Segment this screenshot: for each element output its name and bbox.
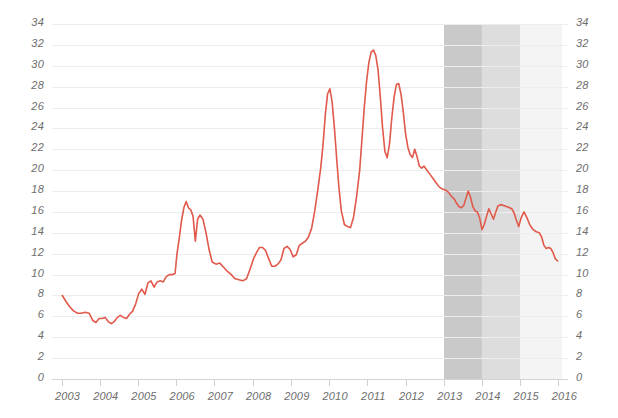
y-tick-label-left-32: 32	[18, 37, 44, 49]
x-tick-2014	[482, 380, 483, 386]
x-tick-label-2011: 2011	[353, 390, 393, 402]
x-tick-2010	[329, 380, 330, 386]
x-tick-label-2007: 2007	[200, 390, 240, 402]
y-tick-label-left-0: 0	[18, 371, 44, 383]
y-tick-label-left-12: 12	[18, 246, 44, 258]
y-tick-label-left-26: 26	[18, 100, 44, 112]
y-tick-label-right-20: 20	[576, 162, 602, 174]
x-tick-label-2016: 2016	[544, 390, 584, 402]
y-tick-label-right-18: 18	[576, 183, 602, 195]
y-tick-label-left-8: 8	[18, 287, 44, 299]
y-tick-label-right-4: 4	[576, 329, 602, 341]
y-tick-label-left-14: 14	[18, 225, 44, 237]
x-tick-2016	[558, 380, 559, 386]
x-tick-2013	[444, 380, 445, 386]
plot-area	[52, 24, 568, 379]
y-tick-label-left-28: 28	[18, 79, 44, 91]
y-tick-label-left-34: 34	[18, 16, 44, 28]
x-tick-label-2004: 2004	[86, 390, 126, 402]
y-tick-label-right-32: 32	[576, 37, 602, 49]
y-tick-label-right-10: 10	[576, 267, 602, 279]
y-tick-label-left-10: 10	[18, 267, 44, 279]
y-tick-label-left-30: 30	[18, 58, 44, 70]
y-tick-label-right-2: 2	[576, 350, 602, 362]
series-line-1	[62, 50, 557, 324]
x-tick-2007	[214, 380, 215, 386]
y-tick-label-right-28: 28	[576, 79, 602, 91]
x-tick-label-2005: 2005	[124, 390, 164, 402]
y-tick-label-left-18: 18	[18, 183, 44, 195]
x-tick-2015	[520, 380, 521, 386]
y-tick-label-right-8: 8	[576, 287, 602, 299]
y-tick-label-right-22: 22	[576, 141, 602, 153]
y-tick-label-left-24: 24	[18, 120, 44, 132]
y-tick-label-right-6: 6	[576, 308, 602, 320]
y-tick-label-left-4: 4	[18, 329, 44, 341]
x-tick-2011	[367, 380, 368, 386]
x-tick-label-2013: 2013	[430, 390, 470, 402]
x-tick-2012	[406, 380, 407, 386]
y-tick-label-right-24: 24	[576, 120, 602, 132]
x-tick-2009	[291, 380, 292, 386]
y-tick-label-left-16: 16	[18, 204, 44, 216]
x-tick-2008	[253, 380, 254, 386]
y-tick-label-left-20: 20	[18, 162, 44, 174]
x-tick-label-2003: 2003	[48, 390, 88, 402]
x-axis-line	[52, 379, 568, 380]
y-tick-label-left-2: 2	[18, 350, 44, 362]
y-tick-label-left-22: 22	[18, 141, 44, 153]
line-chart: 0246810121416182022242628303234 02468101…	[0, 0, 618, 418]
x-tick-label-2010: 2010	[315, 390, 355, 402]
y-tick-label-right-34: 34	[576, 16, 602, 28]
y-tick-label-right-14: 14	[576, 225, 602, 237]
y-tick-label-right-12: 12	[576, 246, 602, 258]
y-tick-label-right-30: 30	[576, 58, 602, 70]
x-tick-2005	[138, 380, 139, 386]
y-tick-label-right-0: 0	[576, 371, 602, 383]
y-tick-label-left-6: 6	[18, 308, 44, 320]
x-tick-label-2008: 2008	[239, 390, 279, 402]
x-tick-2003	[62, 380, 63, 386]
x-tick-2004	[100, 380, 101, 386]
series-layer	[52, 24, 568, 379]
y-tick-label-right-26: 26	[576, 100, 602, 112]
x-tick-label-2009: 2009	[277, 390, 317, 402]
x-tick-2006	[176, 380, 177, 386]
y-tick-label-right-16: 16	[576, 204, 602, 216]
x-tick-label-2015: 2015	[506, 390, 546, 402]
x-tick-label-2012: 2012	[392, 390, 432, 402]
x-tick-label-2014: 2014	[468, 390, 508, 402]
x-tick-label-2006: 2006	[162, 390, 202, 402]
